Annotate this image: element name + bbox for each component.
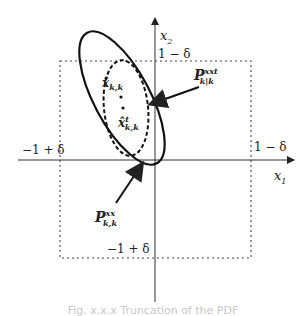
estimate-point: [119, 95, 122, 98]
diagram-canvas: [0, 0, 306, 316]
truncated-cov-arrow: [151, 87, 199, 104]
y-axis-label: x2: [160, 29, 172, 42]
original-cov-label: Pxxk,k: [95, 210, 117, 224]
bound-top-label: 1 − δ: [158, 48, 191, 60]
bound-left-label: −1 + δ: [22, 144, 65, 156]
original-cov-arrow: [116, 164, 142, 203]
truncated-cov-label: Pxxtk|k: [194, 68, 214, 82]
bound-right-label: 1 − δ: [254, 141, 287, 153]
x-axis-label: x1: [274, 169, 286, 182]
truncated-estimate-point: [121, 106, 124, 109]
figure-caption: Fig. x.x.x Truncation of the PDF: [0, 304, 306, 316]
estimate-label: x̂k,k: [102, 77, 123, 89]
truncated-ellipse: [99, 58, 153, 158]
bound-bottom-label: −1 + δ: [107, 243, 150, 255]
truncated-estimate-label: x̂tk,k: [118, 117, 139, 129]
